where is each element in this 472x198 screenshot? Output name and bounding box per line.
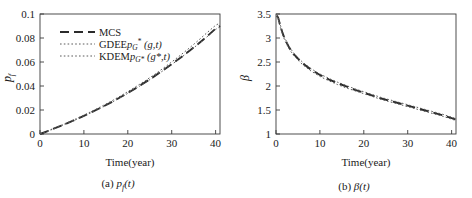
y-axis-title: pf	[0, 72, 16, 83]
panel-b-plot: 01020304011.522.533.5 Time(year)β	[236, 0, 472, 198]
x-tick-label: 10	[78, 137, 90, 149]
legend-label-mcs: MCS	[99, 27, 121, 38]
y-axis-title: β	[238, 75, 252, 82]
plot-frame	[276, 14, 456, 134]
panel-b-axes: 01020304011.522.533.5	[257, 8, 457, 149]
x-tick-label: 10	[314, 137, 326, 149]
x-tick-label: 30	[166, 137, 178, 149]
y-tick-label: 0	[30, 128, 36, 140]
x-axis-title: Time(year)	[105, 156, 154, 169]
x-tick-label: 20	[122, 137, 134, 149]
series-line-kdem	[277, 14, 456, 118]
y-tick-label: 1.5	[257, 104, 271, 116]
x-tick-label: 0	[37, 137, 43, 149]
panel-a: 01020304000.020.040.060.080.1 MCSGDEEpG*…	[0, 0, 236, 198]
x-tick-label: 40	[446, 137, 458, 149]
x-axis-title: Time(year)	[341, 156, 390, 169]
panel-b-axis-labels: Time(year)β	[238, 75, 391, 169]
panel-b-caption: (b) β(t)	[236, 180, 472, 192]
y-tick-label: 0.08	[16, 32, 36, 44]
series-line-mcs	[277, 15, 456, 119]
panel-a-legend: MCSGDEEpG* (g,t)KDEMpG* (g*,t)	[60, 27, 171, 65]
y-tick-label: 0.06	[16, 56, 36, 68]
x-tick-label: 30	[402, 137, 414, 149]
y-tick-label: 0.1	[21, 8, 35, 20]
y-tick-label: 0.04	[16, 80, 36, 92]
panel-b-caption-suffix: (t)	[359, 180, 369, 192]
panel-a-caption: (a) pf(t)	[0, 177, 236, 192]
y-tick-label: 2	[266, 80, 272, 92]
series-line-gdee	[277, 16, 456, 120]
y-tick-label: 1	[266, 128, 272, 140]
y-tick-label: 2.5	[257, 56, 271, 68]
panel-b: 01020304011.522.533.5 Time(year)β (b) β(…	[236, 0, 472, 198]
legend-label-kdem: KDEMpG* (g*,t)	[99, 51, 171, 65]
x-tick-label: 40	[210, 137, 222, 149]
x-tick-label: 20	[358, 137, 370, 149]
panel-b-caption-prefix: (b)	[338, 180, 351, 192]
y-tick-label: 3.5	[257, 8, 271, 20]
y-tick-label: 0.02	[16, 104, 35, 116]
figure-container: 01020304000.020.040.060.080.1 MCSGDEEpG*…	[0, 0, 472, 198]
panel-a-caption-suffix: (t)	[124, 177, 134, 189]
y-tick-label: 3	[266, 32, 272, 44]
x-tick-label: 0	[273, 137, 279, 149]
panel-a-caption-prefix: (a)	[101, 177, 113, 189]
panel-b-curves	[277, 14, 456, 120]
panel-a-plot: 01020304000.020.040.060.080.1 MCSGDEEpG*…	[0, 0, 236, 198]
